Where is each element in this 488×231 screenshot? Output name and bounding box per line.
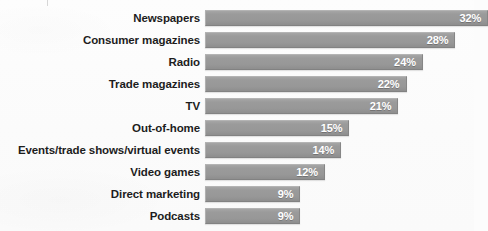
chart-row: Radio 24%: [0, 54, 474, 70]
bar: 22%: [205, 76, 407, 92]
category-label: Radio: [169, 54, 200, 70]
bar: 9%: [205, 186, 300, 202]
bar-value-label: 21%: [370, 98, 398, 114]
bar-value-label: 9%: [278, 208, 300, 224]
bar: 21%: [205, 98, 398, 114]
category-label: Trade magazines: [109, 76, 200, 92]
bar-value-label: 14%: [313, 142, 341, 158]
bar-track: 24%: [205, 54, 474, 70]
category-label: Newspapers: [133, 10, 200, 26]
bar: 32%: [205, 10, 488, 26]
category-label: TV: [186, 98, 201, 114]
chart-row: Podcasts 9%: [0, 208, 474, 224]
bar-track: 9%: [205, 186, 474, 202]
chart-row: Newspapers 32%: [0, 10, 474, 26]
chart-row: Consumer magazines 28%: [0, 32, 474, 48]
chart-row: Direct marketing 9%: [0, 186, 474, 202]
category-label: Out-of-home: [132, 120, 200, 136]
bar-value-label: 28%: [427, 32, 455, 48]
bar-track: 14%: [205, 142, 474, 158]
bar-value-label: 12%: [296, 164, 324, 180]
bar-value-label: 15%: [321, 120, 349, 136]
bar: 28%: [205, 32, 455, 48]
bar-value-label: 9%: [278, 186, 300, 202]
bar-track: 15%: [205, 120, 474, 136]
bar-value-label: 22%: [378, 76, 406, 92]
bar-rows: Newspapers 32% Consumer magazines 28% Ra…: [0, 10, 474, 230]
bar-track: 22%: [205, 76, 474, 92]
chart-row: Out-of-home 15%: [0, 120, 474, 136]
category-label: Events/trade shows/virtual events: [18, 142, 200, 158]
category-label: Consumer magazines: [83, 32, 200, 48]
bar: 12%: [205, 164, 325, 180]
bar: 15%: [205, 120, 349, 136]
chart-row: TV 21%: [0, 98, 474, 114]
bar-track: 9%: [205, 208, 474, 224]
bar-track: 32%: [205, 10, 474, 26]
bar-track: 21%: [205, 98, 474, 114]
bar-track: 12%: [205, 164, 474, 180]
category-label: Direct marketing: [111, 186, 200, 202]
bar-value-label: 32%: [459, 10, 487, 26]
bar-track: 28%: [205, 32, 474, 48]
bar: 24%: [205, 54, 423, 70]
category-label: Podcasts: [150, 208, 200, 224]
chart-row: Trade magazines 22%: [0, 76, 474, 92]
scan-artifact-mark: [47, 0, 48, 6]
chart-row: Events/trade shows/virtual events 14%: [0, 142, 474, 158]
bar: 9%: [205, 208, 300, 224]
chart-row: Video games 12%: [0, 164, 474, 180]
bar: 14%: [205, 142, 341, 158]
category-label: Video games: [130, 164, 200, 180]
bar-value-label: 24%: [394, 54, 422, 70]
